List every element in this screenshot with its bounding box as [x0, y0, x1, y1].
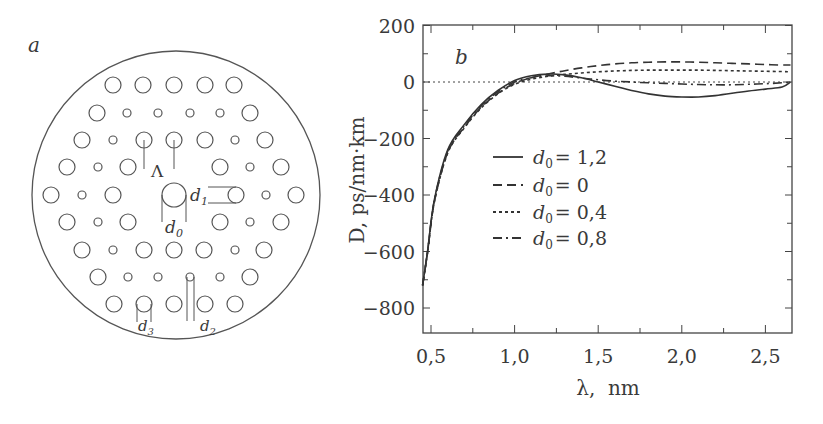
air-hole [197, 296, 213, 312]
d1-label: d1 [190, 185, 208, 208]
air-hole [120, 214, 136, 230]
air-hole [231, 136, 239, 144]
air-hole [257, 132, 273, 148]
air-hole [123, 109, 131, 117]
air-hole [78, 191, 86, 199]
legend: d0= 1,2d0= 0d0= 0,4d0= 0,8 [493, 146, 607, 252]
legend-label: d0= 0 [533, 174, 589, 199]
air-hole [288, 187, 304, 203]
air-hole [246, 163, 254, 171]
air-hole [120, 159, 136, 175]
curve-dotted [423, 70, 791, 285]
air-hole [94, 218, 102, 226]
curve-dashed [423, 62, 791, 286]
air-hole [43, 187, 59, 203]
air-hole [74, 242, 90, 258]
air-hole [246, 218, 254, 226]
d1-annotation [208, 187, 236, 203]
air-hole [242, 269, 258, 285]
panel-a-label: a [28, 33, 40, 57]
air-hole [212, 214, 228, 230]
legend-label: d0= 1,2 [533, 146, 607, 171]
d0-label: d0 [165, 217, 183, 240]
air-hole [231, 246, 239, 254]
air-hole [136, 296, 152, 312]
air-hole [135, 77, 151, 93]
air-hole [124, 273, 132, 281]
air-hole [109, 246, 117, 254]
d3-label: d3 [138, 317, 154, 337]
x-axis-title: λ, nm [576, 376, 640, 400]
y-tick-label: −200 [363, 128, 415, 150]
dispersion-chart-panel: 2000−200−400−600−800 0,51,01,52,02,5 b d… [345, 15, 792, 401]
air-hole [105, 187, 121, 203]
curve-solid [423, 74, 791, 285]
air-hole [256, 242, 272, 258]
air-hole [154, 273, 162, 281]
air-hole [109, 136, 117, 144]
figure: a Λ d0 d1 d2 d3 [0, 0, 823, 424]
x-tick-label: 1,5 [583, 345, 613, 367]
air-hole [89, 105, 105, 121]
panel-b-label: b [455, 45, 468, 69]
y-axis-title: D, ps/nm·km [345, 116, 369, 243]
air-hole [162, 183, 186, 207]
d2-annotation [187, 277, 194, 321]
x-tick-label: 1,0 [499, 345, 529, 367]
air-hole [105, 77, 121, 93]
air-hole [166, 77, 182, 93]
air-hole [197, 132, 213, 148]
air-hole [212, 159, 228, 175]
pitch-label: Λ [150, 161, 164, 181]
air-hole [59, 159, 75, 175]
air-hole [166, 296, 182, 312]
air-hole [186, 109, 194, 117]
air-hole [216, 273, 224, 281]
x-tick-label: 2,0 [667, 345, 697, 367]
legend-label: d0= 0,8 [533, 227, 607, 252]
air-hole [228, 187, 244, 203]
air-hole [94, 163, 102, 171]
legend-label: d0= 0,4 [533, 201, 607, 226]
x-tick-label: 0,5 [416, 345, 446, 367]
air-holes [43, 77, 304, 312]
air-hole [154, 109, 162, 117]
d2-label: d2 [200, 317, 216, 337]
air-hole [262, 191, 270, 199]
x-tick-label: 2,5 [750, 345, 780, 367]
air-hole [90, 269, 106, 285]
y-tick-label: 0 [403, 71, 415, 93]
air-hole [59, 214, 75, 230]
air-hole [273, 214, 289, 230]
y-tick-label: 200 [379, 15, 415, 37]
air-hole [226, 77, 242, 93]
y-tick-label: −600 [363, 241, 415, 263]
air-hole [227, 296, 243, 312]
air-hole [242, 105, 258, 121]
air-hole [273, 159, 289, 175]
air-hole [216, 109, 224, 117]
air-hole [136, 242, 152, 258]
x-axis-ticks: 0,51,01,52,02,5 [416, 25, 781, 367]
air-hole [197, 77, 213, 93]
air-hole [106, 296, 122, 312]
air-hole [196, 242, 212, 258]
y-tick-label: −400 [363, 184, 415, 206]
fiber-cross-section-panel: a Λ d0 d1 d2 d3 [28, 33, 320, 339]
dispersion-curves [423, 62, 791, 286]
air-hole [74, 132, 90, 148]
air-hole [166, 242, 182, 258]
y-tick-label: −800 [363, 297, 415, 319]
